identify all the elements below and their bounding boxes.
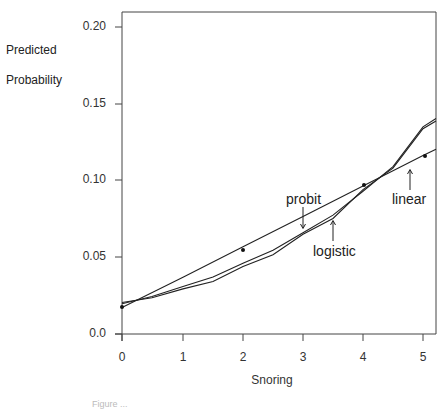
linear-label: linear [392, 191, 427, 207]
data-point [120, 305, 124, 309]
y-axis-ticks [115, 27, 122, 334]
logistic-arrow-icon [331, 221, 336, 242]
data-point [362, 183, 366, 187]
probit-fit-line [122, 119, 436, 304]
logistic-fit-line [122, 121, 436, 303]
plot-frame [115, 12, 436, 341]
probit-label: probit [286, 191, 321, 207]
data-point [423, 154, 427, 158]
x-axis-ticks [122, 334, 423, 341]
logistic-label: logistic [313, 243, 356, 259]
data-point [241, 248, 245, 252]
linear-arrow-icon [408, 170, 413, 191]
linear-fit-line [122, 149, 436, 307]
